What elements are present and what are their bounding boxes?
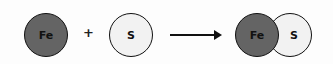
reaction-arrow-icon <box>170 34 216 36</box>
plus-sign: + <box>83 25 94 40</box>
product-sulfur-label: S <box>290 29 298 42</box>
sulfur-label: S <box>127 29 135 42</box>
product-iron-label: Fe <box>250 29 265 42</box>
reactant-iron-atom: Fe <box>24 13 68 57</box>
iron-label: Fe <box>39 29 54 42</box>
product-iron-atom: Fe <box>235 13 279 57</box>
reactant-sulfur-atom: S <box>109 13 153 57</box>
